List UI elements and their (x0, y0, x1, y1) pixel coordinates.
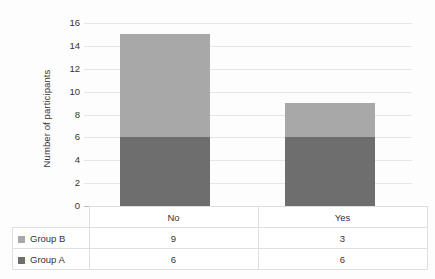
category-label-no: No (89, 207, 258, 228)
table-cell-group-b-no: 9 (89, 228, 258, 249)
legend-label: Group A (30, 254, 65, 265)
y-tick-2: 2 (58, 178, 80, 188)
bar-column-no (120, 34, 210, 206)
table-row-categories: NoYes (13, 207, 428, 228)
table-cell-group-b-yes: 3 (258, 228, 427, 249)
table-row: Group A66 (13, 249, 428, 270)
stacked-bar-chart: Number of participants 1614121086420 NoY… (0, 0, 435, 279)
legend-entry-group-b: Group B (13, 228, 90, 249)
y-tick-16: 16 (58, 18, 80, 28)
legend-entry-group-a: Group A (13, 249, 90, 270)
table-row: Group B93 (13, 228, 428, 249)
y-tick-12: 12 (58, 64, 80, 74)
bar-segment-group-a-yes (285, 137, 375, 206)
data-table-body: NoYesGroup B93Group A66 (13, 207, 428, 270)
bar-segment-group-a-no (120, 137, 210, 206)
plot-area: Number of participants 1614121086420 (0, 0, 435, 212)
y-tick-4: 4 (58, 156, 80, 166)
table-corner-cell (13, 207, 90, 228)
bar-series-layer (84, 0, 412, 212)
legend-swatch-icon (18, 236, 25, 243)
y-tick-8: 8 (58, 110, 80, 120)
y-axis-title: Number of participants (41, 39, 52, 199)
chart-data-table: NoYesGroup B93Group A66 (12, 206, 428, 270)
y-tick-6: 6 (58, 133, 80, 143)
table-cell-group-a-no: 6 (89, 249, 258, 270)
bar-column-yes (285, 103, 375, 206)
y-tick-10: 10 (58, 87, 80, 97)
legend-label: Group B (30, 233, 65, 244)
y-tick-14: 14 (58, 41, 80, 51)
bar-segment-group-b-yes (285, 103, 375, 137)
y-axis-tick-labels: 1614121086420 (58, 0, 80, 212)
bar-segment-group-b-no (120, 34, 210, 137)
category-label-yes: Yes (258, 207, 427, 228)
legend-swatch-icon (18, 257, 25, 264)
table-cell-group-a-yes: 6 (258, 249, 427, 270)
